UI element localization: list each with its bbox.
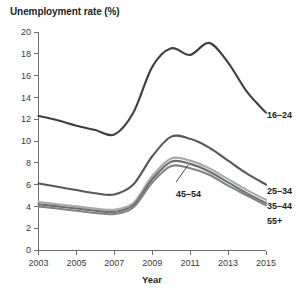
series-label-45-54: 45–54 <box>176 189 201 199</box>
x-tick-label: 2015 <box>256 258 276 268</box>
x-tick-label: 2009 <box>142 258 162 268</box>
x-axis-label: Year <box>142 274 162 285</box>
y-axis <box>34 32 39 250</box>
data-line-16-24 <box>39 43 267 135</box>
series-label-16-24: 16–24 <box>267 110 292 120</box>
y-tick-label: 10 <box>21 136 31 146</box>
y-axis-ticks <box>34 32 39 250</box>
series-label-35-44: 35–44 <box>267 201 292 211</box>
y-axis-tick-labels: 02468101214161820 <box>21 27 31 255</box>
x-axis-tick-labels: 2003200520072009201120132015 <box>28 258 276 268</box>
x-tick-label: 2013 <box>218 258 238 268</box>
y-tick-label: 0 <box>26 245 31 255</box>
y-tick-label: 18 <box>21 49 31 59</box>
data-line-45-54 <box>39 161 267 212</box>
x-axis-ticks <box>39 251 267 256</box>
x-tick-label: 2003 <box>28 258 48 268</box>
y-tick-label: 20 <box>21 27 31 37</box>
y-tick-label: 4 <box>26 202 31 212</box>
y-tick-label: 14 <box>21 93 31 103</box>
x-tick-label: 2005 <box>66 258 86 268</box>
series-label-55-plus: 55+ <box>267 216 282 226</box>
x-tick-label: 2007 <box>104 258 124 268</box>
y-tick-label: 12 <box>21 114 31 124</box>
unemployment-rate-chart: Unemployment rate (%) 02468101214161820 … <box>0 0 302 290</box>
x-axis <box>39 251 267 256</box>
series-label-25-34: 25–34 <box>267 186 292 196</box>
annotation-leader-line-45-54 <box>176 165 188 182</box>
x-tick-label: 2011 <box>180 258 199 268</box>
data-line-25-34 <box>39 135 267 194</box>
y-tick-label: 6 <box>26 180 31 190</box>
y-tick-label: 2 <box>26 223 31 233</box>
chart-plot-area: 02468101214161820 2003200520072009201120… <box>0 0 302 290</box>
data-series-group <box>39 43 267 215</box>
y-tick-label: 16 <box>21 71 31 81</box>
y-tick-label: 8 <box>26 158 31 168</box>
